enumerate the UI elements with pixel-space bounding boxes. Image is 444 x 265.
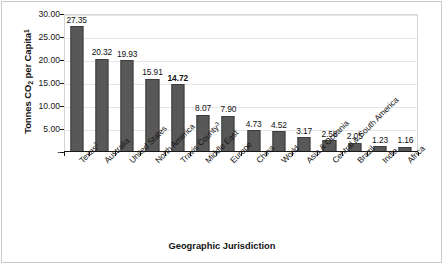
- bar-slot: 1.16: [393, 14, 418, 152]
- y-axis-tick-label: -: [22, 147, 60, 157]
- bar-value-label: 8.07: [195, 103, 211, 113]
- bar[interactable]: [70, 26, 83, 152]
- x-axis-tick-mark: [342, 152, 343, 156]
- x-axis-tick-mark: [89, 152, 90, 156]
- x-axis-tick-mark: [64, 152, 65, 156]
- bar-slot: 3.17: [292, 14, 317, 152]
- x-axis-title: Geographic Jurisdiction: [0, 241, 444, 251]
- y-axis-tick-label: 10.00: [22, 101, 60, 111]
- x-axis-tick-mark: [266, 152, 267, 156]
- bar-value-label: 1.23: [372, 135, 388, 145]
- y-axis-tick-mark: [60, 37, 64, 38]
- x-axis-tick-mark: [367, 152, 368, 156]
- bar-slot: 1.23: [367, 14, 392, 152]
- bar-slot: 27.35: [64, 14, 89, 152]
- y-axis-tick-mark: [60, 106, 64, 107]
- scan-artifact: . . . . . . . .: [30, 205, 63, 214]
- bar-value-label: 4.73: [246, 119, 262, 129]
- x-axis-tick-mark: [165, 152, 166, 156]
- bar-slot: 19.93: [115, 14, 140, 152]
- bar-value-label: 1.16: [397, 135, 413, 145]
- bar-value-label: 27.35: [66, 15, 86, 25]
- bar-value-label: 14.72: [168, 73, 188, 83]
- x-axis-tick-mark: [418, 152, 419, 156]
- bar-value-label: 20.32: [92, 47, 112, 57]
- y-axis-tick-label: 20.00: [22, 55, 60, 65]
- bar-slot: 4.52: [266, 14, 291, 152]
- x-axis-tick-mark: [115, 152, 116, 156]
- bar-value-label: 4.52: [271, 120, 287, 130]
- x-axis-category-labels: Texas2AustraliaUnited StatesNorth Americ…: [64, 158, 418, 238]
- bar-value-label: 19.93: [117, 49, 137, 59]
- x-axis-tick-mark: [140, 152, 141, 156]
- y-axis-tick-mark: [60, 60, 64, 61]
- y-axis-tick-label: 25.00: [22, 32, 60, 42]
- bar-slot: 20.32: [89, 14, 114, 152]
- y-axis-tick-label: 30.00: [22, 9, 60, 19]
- x-axis-tick-mark: [317, 152, 318, 156]
- bar-value-label: 7.90: [220, 104, 236, 114]
- x-axis-tick-mark: [216, 152, 217, 156]
- y-axis-tick-mark: [60, 14, 64, 15]
- bar[interactable]: [95, 59, 108, 152]
- y-axis-tick-label: 5.00: [22, 124, 60, 134]
- x-axis-tick-mark: [190, 152, 191, 156]
- x-axis-tick-mark: [292, 152, 293, 156]
- x-axis-tick-mark: [393, 152, 394, 156]
- y-axis-tick-labels: -5.0010.0015.0020.0025.0030.00: [22, 14, 60, 152]
- bar-value-label: 15.91: [142, 67, 162, 77]
- bar-value-label: 3.17: [296, 126, 312, 136]
- co2-per-capita-bar-chart: . . . . . . . . . . . . . . . . . . . To…: [0, 0, 444, 265]
- y-axis-tick-mark: [60, 129, 64, 130]
- bar-slot: 4.73: [241, 14, 266, 152]
- y-axis-tick-mark: [60, 83, 64, 84]
- y-axis-tick-label: 15.00: [22, 78, 60, 88]
- x-axis-tick-mark: [241, 152, 242, 156]
